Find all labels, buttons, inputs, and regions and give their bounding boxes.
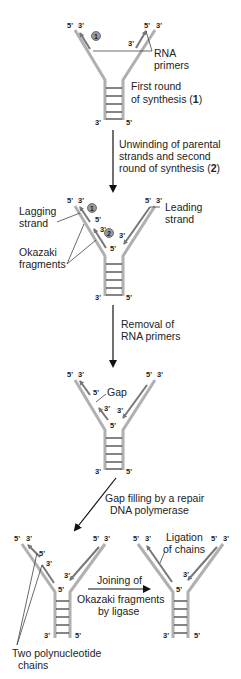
end-label: 3' bbox=[46, 559, 52, 568]
end-label: 3' bbox=[78, 21, 84, 30]
end-label: 3' bbox=[157, 370, 163, 379]
end-label: 3' bbox=[163, 631, 169, 640]
end-label: 3' bbox=[117, 406, 123, 415]
end-label: 3' bbox=[145, 534, 151, 543]
end-label: 5' bbox=[133, 534, 139, 543]
end-label: 5' bbox=[95, 215, 101, 224]
end-label: 5' bbox=[211, 534, 217, 543]
leading-strand-arrow bbox=[124, 207, 150, 244]
end-label: 3' bbox=[78, 196, 84, 205]
end-label: 5' bbox=[67, 196, 73, 205]
first-round-label: of synthesis (1) bbox=[131, 93, 202, 105]
step-label: Okazaki fragments bbox=[77, 593, 165, 605]
end-label: 3' bbox=[64, 571, 70, 580]
ligation-label: Ligation bbox=[166, 531, 203, 543]
two-chains-label: chains bbox=[18, 659, 48, 671]
lagging-strand-label: strand bbox=[19, 217, 48, 229]
leading-strand-arrow bbox=[70, 547, 99, 580]
svg-text:1: 1 bbox=[90, 205, 94, 212]
first-round-label: First round bbox=[131, 80, 181, 92]
base-pair-rungs bbox=[56, 601, 69, 633]
step-label: Gap filling by a repair bbox=[105, 492, 205, 504]
end-label: 5' bbox=[126, 467, 132, 476]
stage-5-fork: 5' 3' 5' 3' 5' 3' 3' 5' Ligation of chai… bbox=[133, 531, 229, 640]
end-label: 3' bbox=[95, 467, 101, 476]
step-label: Unwinding of parental bbox=[119, 138, 221, 150]
base-pair-rungs bbox=[106, 438, 122, 469]
step-label: by ligase bbox=[98, 605, 140, 617]
rna-primers-label: primers bbox=[154, 59, 189, 71]
okazaki-fragments-label: Okazaki bbox=[19, 246, 57, 258]
step-label: Joining of bbox=[97, 574, 142, 586]
step-label: DNA polymerase bbox=[110, 504, 189, 516]
end-label: 3' bbox=[104, 534, 110, 543]
step-marker-1: 1 bbox=[88, 204, 97, 213]
end-label: 3' bbox=[156, 196, 162, 205]
end-label: 5' bbox=[126, 118, 132, 127]
end-label: 5' bbox=[176, 585, 182, 594]
base-pair-rungs bbox=[174, 601, 187, 633]
end-label: 5' bbox=[75, 631, 81, 640]
rna-primers-label: RNA bbox=[154, 47, 176, 59]
lagging-strand-label: Lagging bbox=[19, 205, 57, 217]
svg-text:2: 2 bbox=[107, 230, 111, 237]
end-label: 5' bbox=[93, 388, 99, 397]
step-label: Removal of bbox=[121, 318, 174, 330]
step-label: RNA primers bbox=[121, 330, 181, 342]
end-label: 5' bbox=[93, 534, 99, 543]
svg-text:1: 1 bbox=[94, 33, 98, 40]
step-marker-1: 1 bbox=[92, 32, 101, 41]
okazaki-fragments-label: fragments bbox=[19, 258, 66, 270]
dna-replication-diagram: 5' 3' 5' 3' 3' 3' 5' 1 RNA primers First… bbox=[0, 0, 241, 679]
end-label: 5' bbox=[39, 549, 45, 558]
gap-label: Gap bbox=[107, 386, 127, 398]
end-label: 3' bbox=[95, 293, 101, 302]
end-label: 5' bbox=[110, 244, 116, 253]
end-label: 3' bbox=[104, 404, 110, 413]
leading-strand-label: strand bbox=[165, 213, 194, 225]
end-label: 3' bbox=[128, 39, 134, 48]
end-label: 5' bbox=[146, 370, 152, 379]
end-label: 3' bbox=[78, 370, 84, 379]
stage-1-fork: 5' 3' 5' 3' 3' 3' 5' 1 RNA primers First… bbox=[67, 21, 202, 127]
ligation-label: of chains bbox=[163, 543, 205, 555]
end-label: 5' bbox=[126, 293, 132, 302]
end-label: 3' bbox=[95, 118, 101, 127]
end-label: 3' bbox=[44, 631, 50, 640]
end-label: 3' bbox=[119, 231, 125, 240]
end-label: 5' bbox=[194, 631, 200, 640]
end-label: 3' bbox=[183, 570, 189, 579]
end-label: 5' bbox=[110, 421, 116, 430]
end-label: 3' bbox=[156, 21, 162, 30]
base-pair-rungs bbox=[106, 264, 122, 295]
base-pair-rungs bbox=[106, 88, 122, 119]
end-label: 5' bbox=[58, 585, 64, 594]
stage-3-fork: 5' 3' 5' 3' 5' 3' 5' 3' 3' 5' Gap bbox=[67, 370, 163, 476]
end-label: 5' bbox=[144, 21, 150, 30]
step-label: round of synthesis (2) bbox=[119, 162, 220, 174]
step-marker-2: 2 bbox=[105, 229, 114, 238]
end-label: 5' bbox=[14, 534, 20, 543]
leading-strand-label: Leading bbox=[165, 201, 203, 213]
end-label: 5' bbox=[67, 21, 73, 30]
end-label: 3' bbox=[223, 534, 229, 543]
step-label: strands and second bbox=[119, 150, 211, 162]
end-label: 3' bbox=[26, 534, 32, 543]
two-chains-label: Two polynucleotide bbox=[12, 647, 101, 659]
end-label: 5' bbox=[67, 370, 73, 379]
stage-2-fork: 5' 3' 5' 3' 5' 3' 5' 3' 3' 5' 1 2 Laggin… bbox=[19, 196, 203, 302]
end-label: 5' bbox=[145, 196, 151, 205]
